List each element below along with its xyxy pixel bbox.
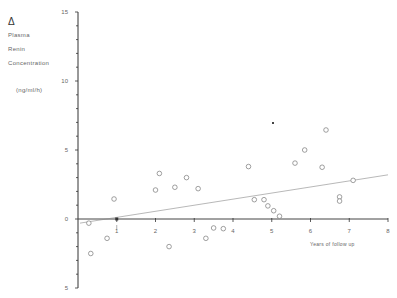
x-tick-label: 7 [348, 228, 352, 234]
data-points [87, 128, 356, 256]
data-point [221, 226, 226, 231]
scatter-plot: 151050512345678 [0, 0, 397, 298]
data-point [112, 197, 117, 202]
data-point [87, 221, 92, 226]
data-point [153, 188, 158, 193]
data-point [184, 175, 189, 180]
x-tick-label: 5 [270, 228, 274, 234]
x-tick-label: 4 [231, 228, 235, 234]
data-point [246, 164, 251, 169]
data-point [105, 236, 110, 241]
data-point [262, 197, 267, 202]
data-point [157, 171, 162, 176]
y-tick-label: 10 [61, 78, 68, 84]
x-tick-label: 1 [115, 228, 119, 234]
data-point [252, 197, 257, 202]
data-point [88, 251, 93, 256]
data-point [266, 204, 271, 209]
data-point [271, 208, 276, 213]
regression-segment [80, 175, 388, 223]
speck-mark [272, 122, 274, 124]
x-tick-label: 8 [386, 228, 390, 234]
y-tick-label: 0 [65, 216, 69, 222]
data-point [302, 148, 307, 153]
data-point [337, 199, 342, 204]
data-point [211, 226, 216, 231]
data-point [196, 186, 201, 191]
y-tick-label: 5 [65, 285, 69, 291]
y-tick-label: 15 [61, 9, 68, 15]
data-point [351, 178, 356, 183]
x-tick-label: 3 [193, 228, 197, 234]
data-point [204, 236, 209, 241]
data-point [324, 128, 329, 133]
y-tick-label: 5 [65, 147, 69, 153]
data-point [320, 165, 325, 170]
data-point [293, 161, 298, 166]
data-point [167, 244, 172, 249]
axes: 151050512345678 [61, 9, 390, 291]
data-point [277, 214, 282, 219]
regression-line [80, 175, 388, 223]
data-point [173, 185, 178, 190]
x-tick-label: 6 [309, 228, 313, 234]
axis-marker [115, 218, 118, 221]
x-tick-label: 2 [154, 228, 158, 234]
